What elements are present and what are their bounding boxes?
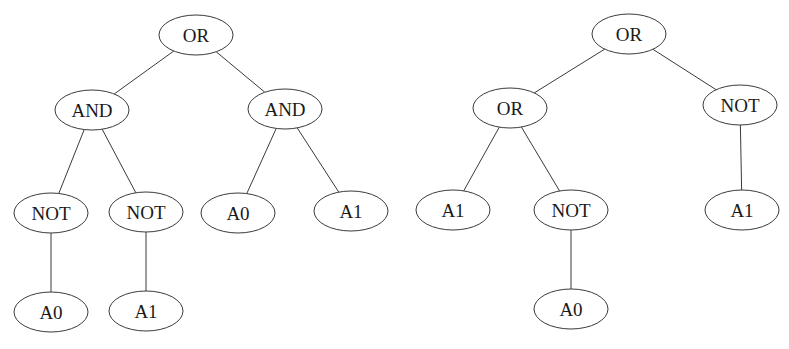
node-not: NOT [534, 190, 608, 230]
node-label: NOT [720, 95, 759, 116]
left-tree-nodes: ORANDANDNOTNOTA0A1A0A1 [14, 15, 388, 332]
node-label: AND [264, 99, 305, 120]
node-label: A1 [134, 301, 157, 322]
right-tree [464, 49, 742, 289]
right-tree-nodes: ORORNOTA1NOTA1A0 [416, 14, 779, 329]
node-label: NOT [31, 203, 70, 224]
edge-l_and1-l_not2 [102, 129, 136, 193]
edge-r_not1-r_a1b [740, 125, 741, 190]
edge-l_and1-l_not1 [59, 130, 84, 194]
node-and: AND [248, 89, 322, 129]
node-a0: A0 [201, 193, 275, 233]
node-label: OR [616, 24, 643, 45]
edge-r_or-r_not1 [653, 49, 716, 89]
edge-r_or-r_or2 [534, 49, 604, 93]
left-tree [51, 51, 339, 292]
edge-l_and2-l_a1 [297, 128, 339, 192]
node-label: A1 [339, 201, 362, 222]
edge-r_or2-r_not2 [521, 127, 559, 191]
node-label: A0 [559, 299, 582, 320]
node-label: AND [71, 100, 112, 121]
node-not: NOT [703, 85, 777, 125]
edge-l_or-l_and1 [114, 51, 174, 94]
nodes-layer: ORANDANDNOTNOTA0A1A0A1ORORNOTA1NOTA1A0 [14, 14, 779, 332]
edge-l_or-l_and2 [216, 52, 265, 92]
node-a0: A0 [14, 292, 88, 332]
node-label: NOT [126, 202, 165, 223]
node-label: NOT [551, 200, 590, 221]
expression-tree-diagram: ORANDANDNOTNOTA0A1A0A1ORORNOTA1NOTA1A0 [0, 0, 789, 349]
node-label: OR [497, 98, 524, 119]
edge-r_or2-r_a1 [464, 127, 500, 191]
node-a0: A0 [534, 289, 608, 329]
node-not: NOT [14, 193, 88, 233]
node-label: OR [183, 25, 210, 46]
node-label: A0 [39, 302, 62, 323]
node-or: OR [592, 14, 666, 54]
node-or: OR [473, 88, 547, 128]
node-label: A1 [441, 200, 464, 221]
edges-layer [51, 49, 742, 292]
node-a1: A1 [416, 190, 490, 230]
node-a1: A1 [705, 190, 779, 230]
node-a1: A1 [109, 291, 183, 331]
node-label: A1 [730, 200, 753, 221]
node-and: AND [55, 90, 129, 130]
node-or: OR [159, 15, 233, 55]
node-a1: A1 [314, 191, 388, 231]
node-label: A0 [226, 203, 249, 224]
edge-l_and2-l_a0 [247, 128, 276, 193]
node-not: NOT [109, 192, 183, 232]
